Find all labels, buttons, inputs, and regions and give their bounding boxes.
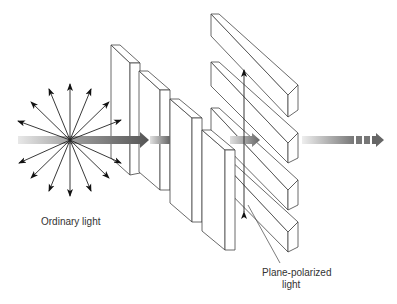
- outgoing-beam: [302, 133, 384, 147]
- plate-4: [202, 130, 235, 250]
- ordinary-light-label: Ordinary light: [41, 216, 101, 227]
- polarization-diagram: Ordinary light Plane-polarized light: [0, 0, 397, 304]
- plane-polarized-label-line1: Plane-polarized: [262, 267, 332, 278]
- beam-segment: [150, 136, 170, 144]
- plane-polarized-label-line2: light: [282, 279, 301, 290]
- plate-3: [170, 99, 202, 222]
- plate-2: [139, 71, 170, 190]
- plate-1: [111, 45, 140, 175]
